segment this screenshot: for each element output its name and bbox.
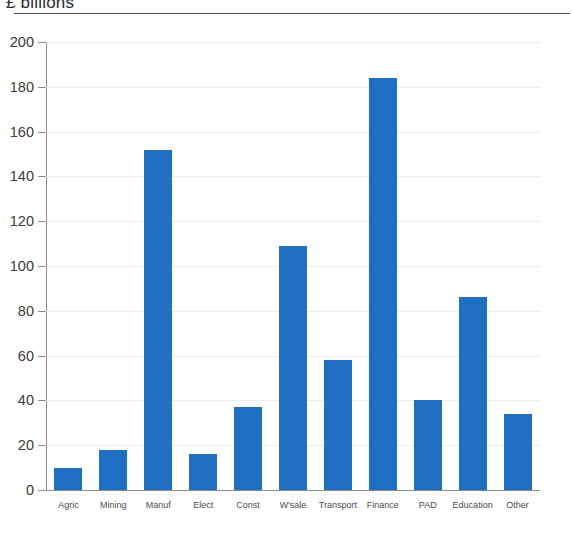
x-axis-tick-label: Education bbox=[453, 500, 493, 510]
bar bbox=[234, 407, 262, 490]
plot-area bbox=[46, 42, 540, 490]
x-axis-tick-label: PAD bbox=[419, 500, 437, 510]
y-axis-tick-label: 180 bbox=[0, 79, 34, 95]
x-axis-tick-label: Agric bbox=[58, 500, 79, 510]
x-axis-tick-label: Const bbox=[236, 500, 260, 510]
y-axis-tick-label: 80 bbox=[0, 303, 34, 319]
gridline bbox=[46, 221, 540, 222]
bar bbox=[279, 246, 307, 490]
x-axis-tick-label: Other bbox=[506, 500, 529, 510]
axis-baseline bbox=[46, 490, 540, 491]
gridline bbox=[46, 132, 540, 133]
y-tick-mark bbox=[38, 490, 46, 491]
y-axis-tick-label: 40 bbox=[0, 392, 34, 408]
x-axis-tick-label: Finance bbox=[367, 500, 399, 510]
y-axis-tick-label: 160 bbox=[0, 124, 34, 140]
bar bbox=[54, 468, 82, 490]
y-tick-mark bbox=[38, 87, 46, 88]
gridline bbox=[46, 87, 540, 88]
y-tick-mark bbox=[38, 176, 46, 177]
x-axis-tick-label: Transport bbox=[319, 500, 357, 510]
title-divider bbox=[14, 13, 570, 14]
bar bbox=[99, 450, 127, 490]
bar bbox=[324, 360, 352, 490]
y-tick-mark bbox=[38, 266, 46, 267]
page-title: £ billions bbox=[6, 0, 74, 13]
x-axis-tick-label: Elect bbox=[193, 500, 213, 510]
y-tick-mark bbox=[38, 221, 46, 222]
bar bbox=[189, 454, 217, 490]
gridline bbox=[46, 42, 540, 43]
bar bbox=[459, 297, 487, 490]
y-axis-tick-label: 140 bbox=[0, 168, 34, 184]
y-axis-tick-label: 20 bbox=[0, 437, 34, 453]
bar bbox=[369, 78, 397, 490]
bar bbox=[414, 400, 442, 490]
y-axis-tick-label: 60 bbox=[0, 348, 34, 364]
bar bbox=[144, 150, 172, 490]
bar bbox=[504, 414, 532, 490]
y-axis-tick-label: 120 bbox=[0, 213, 34, 229]
y-tick-mark bbox=[38, 400, 46, 401]
x-axis-tick-label: Manuf bbox=[146, 500, 171, 510]
y-tick-mark bbox=[38, 356, 46, 357]
y-axis-tick-label: 100 bbox=[0, 258, 34, 274]
y-tick-mark bbox=[38, 132, 46, 133]
y-axis-tick-label: 0 bbox=[0, 482, 34, 498]
y-tick-mark bbox=[38, 311, 46, 312]
gridline bbox=[46, 176, 540, 177]
y-tick-mark bbox=[38, 42, 46, 43]
y-tick-mark bbox=[38, 445, 46, 446]
y-axis-tick-label: 200 bbox=[0, 34, 34, 50]
x-axis-tick-label: Mining bbox=[100, 500, 127, 510]
x-axis-tick-label: W'sale bbox=[280, 500, 307, 510]
